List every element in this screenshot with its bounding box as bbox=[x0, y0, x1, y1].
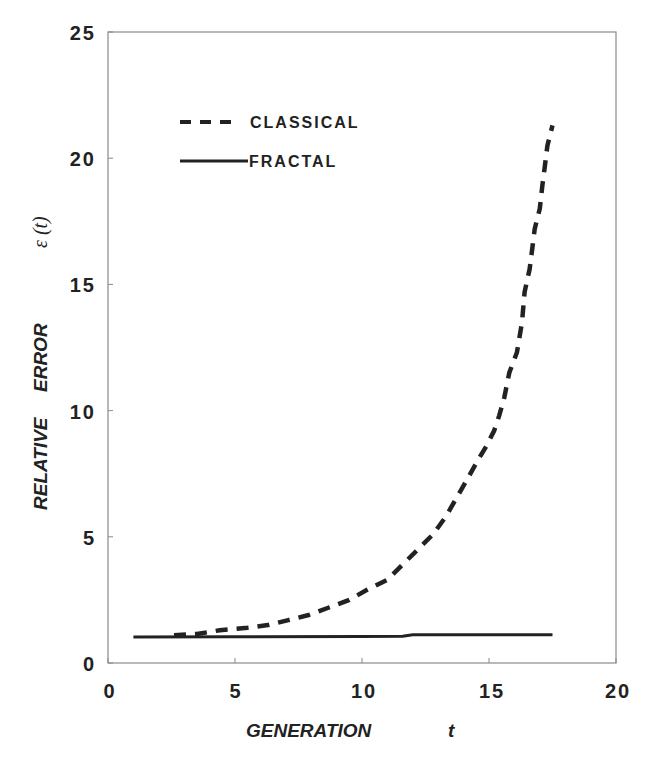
relative-error-chart: 0 5 10 15 20 25 0 5 10 15 20 GENERATION … bbox=[0, 0, 659, 758]
axis-ticks bbox=[108, 32, 616, 663]
legend: CLASSICAL FRACTAL bbox=[180, 114, 360, 170]
y-axis-title-symbol: ε (t) bbox=[29, 216, 52, 248]
y-tick-labels: 0 5 10 15 20 25 bbox=[70, 22, 96, 675]
y-axis-title: RELATIVE ERROR ε (t) bbox=[29, 216, 52, 510]
x-tick-0: 0 bbox=[103, 680, 116, 702]
y-axis-title-word-2: ERROR bbox=[30, 323, 51, 392]
x-tick-15: 15 bbox=[479, 680, 505, 702]
x-tick-20: 20 bbox=[605, 680, 631, 702]
plot-frame bbox=[108, 32, 616, 663]
classical-series-line bbox=[174, 125, 553, 635]
y-tick-20: 20 bbox=[70, 148, 96, 170]
legend-classical-label: CLASSICAL bbox=[250, 114, 360, 131]
y-tick-15: 15 bbox=[70, 274, 96, 296]
y-tick-5: 5 bbox=[83, 527, 96, 549]
x-tick-5: 5 bbox=[229, 680, 242, 702]
y-tick-10: 10 bbox=[70, 401, 96, 423]
x-tick-labels: 0 5 10 15 20 bbox=[103, 680, 631, 702]
x-tick-10: 10 bbox=[351, 680, 377, 702]
y-axis-title-word-1: RELATIVE bbox=[30, 416, 51, 510]
y-tick-25: 25 bbox=[70, 22, 96, 44]
legend-fractal-label: FRACTAL bbox=[249, 153, 337, 170]
x-axis-variable: t bbox=[448, 720, 455, 741]
y-tick-0: 0 bbox=[83, 653, 96, 675]
x-axis-title: GENERATION bbox=[246, 720, 373, 741]
